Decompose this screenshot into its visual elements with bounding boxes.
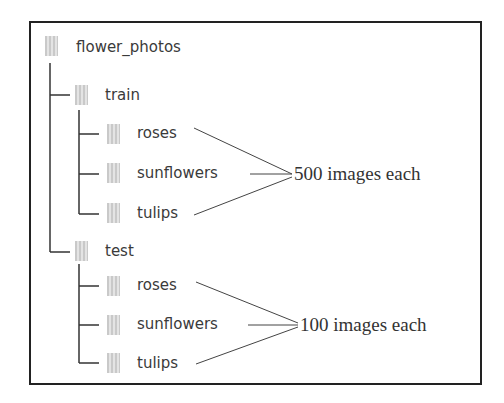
train-tulips-label[interactable]: tulips xyxy=(137,204,178,222)
folder-icon xyxy=(107,315,120,335)
train-tulips-pointer xyxy=(194,177,292,215)
test-roses-label[interactable]: roses xyxy=(137,276,177,294)
train-annotation: 500 images each xyxy=(294,163,421,185)
folder-icon xyxy=(107,124,120,144)
train-roses-label[interactable]: roses xyxy=(137,124,177,142)
folder-icon xyxy=(75,85,88,105)
folder-icon xyxy=(45,36,58,56)
test-sunflowers-label[interactable]: sunflowers xyxy=(137,315,218,333)
folder-icon xyxy=(107,163,120,183)
folder-icon xyxy=(107,276,120,296)
folder-icon xyxy=(107,203,120,223)
test-folder-label[interactable]: test xyxy=(105,242,134,260)
folder-icon xyxy=(107,353,120,373)
root-folder-label[interactable]: flower_photos xyxy=(76,38,181,56)
folder-icon xyxy=(75,241,88,261)
tree-connector-lines xyxy=(0,0,504,403)
train-sunflowers-label[interactable]: sunflowers xyxy=(137,164,218,182)
train-folder-label[interactable]: train xyxy=(105,86,140,104)
test-tulips-label[interactable]: tulips xyxy=(137,354,178,372)
test-annotation: 100 images each xyxy=(300,314,427,336)
